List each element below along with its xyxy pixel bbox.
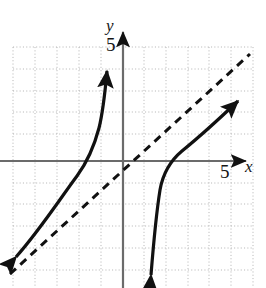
right-function-curve bbox=[151, 101, 238, 275]
grid-horizontal-lines bbox=[13, 47, 253, 270]
x-axis-label: x bbox=[245, 158, 253, 175]
y-axis-tick-label-5: 5 bbox=[106, 35, 116, 54]
y-axis-label: y bbox=[106, 17, 114, 34]
x-axis-tick-label-5: 5 bbox=[220, 162, 230, 181]
identity-reference-line bbox=[10, 54, 250, 274]
graph-canvas bbox=[0, 0, 266, 288]
graph-figure: y x 5 5 bbox=[0, 0, 266, 288]
left-function-curve bbox=[16, 71, 107, 257]
